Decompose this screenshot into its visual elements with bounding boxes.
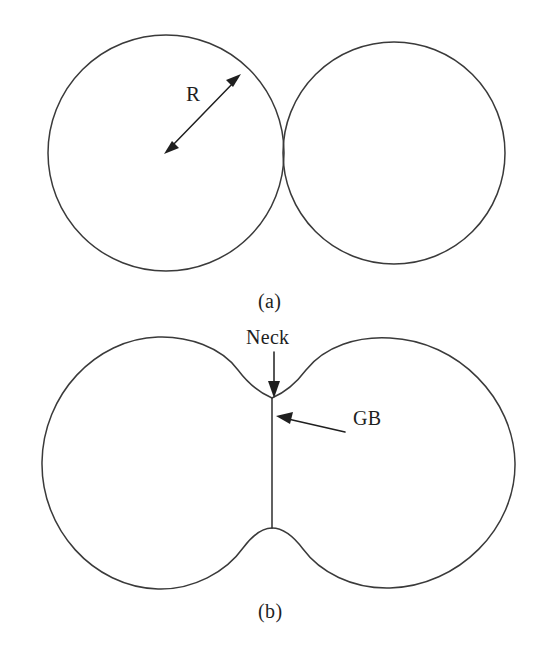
- gb-arrowhead: [276, 412, 293, 424]
- panel-b-group: [42, 337, 515, 589]
- radius-arrowhead-center: [164, 141, 179, 154]
- neck-label: Neck: [246, 326, 289, 349]
- figure-root: R (a) Neck GB (b): [0, 0, 543, 656]
- panel-b-left-particle: [42, 337, 272, 589]
- panel-b-caption: (b): [258, 600, 283, 623]
- gb-arrow-shaft: [288, 419, 345, 432]
- panel-a-radius-arrow: [164, 74, 241, 154]
- panel-a-group: [48, 35, 505, 271]
- panel-b-neck-arrow: [268, 352, 280, 398]
- panel-b-gb-arrow: [276, 412, 345, 432]
- radius-arrow-shaft: [170, 80, 236, 148]
- radius-arrowhead-outer: [226, 74, 241, 87]
- radius-label: R: [186, 82, 200, 107]
- panel-a-caption: (a): [258, 290, 281, 313]
- panel-a-right-particle: [283, 42, 505, 264]
- panel-b-right-particle: [272, 338, 515, 588]
- grain-boundary-label: GB: [353, 407, 381, 430]
